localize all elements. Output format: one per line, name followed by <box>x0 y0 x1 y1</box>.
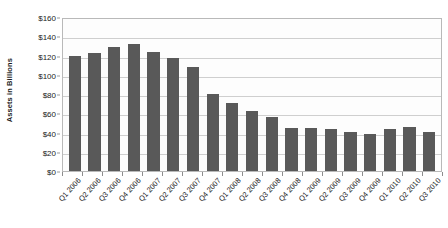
bar-slot <box>282 19 302 171</box>
bar-slot <box>242 19 262 171</box>
bar <box>226 103 238 171</box>
y-axis-tick-label: $120 <box>38 52 56 61</box>
bar <box>285 128 297 171</box>
bar-slot <box>163 19 183 171</box>
bar <box>266 117 278 171</box>
y-axis-tick-mark <box>57 133 60 134</box>
bar <box>364 134 376 171</box>
bar-slot <box>104 19 124 171</box>
bar <box>187 67 199 171</box>
y-axis-tick-mark <box>57 152 60 153</box>
y-axis-tick-labels: $0$20$40$60$80$100$120$140$160 <box>16 0 60 180</box>
bar-slot <box>65 19 85 171</box>
y-axis-tick-mark <box>57 18 60 19</box>
bar <box>246 111 258 171</box>
bar-slot <box>360 19 380 171</box>
y-axis-tick-mark <box>57 56 60 57</box>
bar <box>325 129 337 171</box>
bar <box>423 132 435 171</box>
bar <box>305 128 317 171</box>
y-axis-tick-label: $100 <box>38 71 56 80</box>
bar <box>384 129 396 171</box>
bar-slot <box>203 19 223 171</box>
x-axis-tick-mark <box>442 172 443 176</box>
y-axis-tick-label: $0 <box>47 168 56 177</box>
y-axis-tick-label: $20 <box>43 148 56 157</box>
bar-slot <box>419 19 439 171</box>
y-axis-tick-label: $140 <box>38 33 56 42</box>
bar <box>88 53 100 171</box>
y-axis-tick-label: $40 <box>43 129 56 138</box>
bar-chart: Assets in Billions $0$20$40$60$80$100$12… <box>0 0 448 228</box>
bar-slot <box>183 19 203 171</box>
bar-slot <box>85 19 105 171</box>
y-axis-tick-mark <box>57 95 60 96</box>
bar-slot <box>124 19 144 171</box>
bar-slot <box>341 19 361 171</box>
y-axis-tick-mark <box>57 37 60 38</box>
bar <box>69 56 81 171</box>
bar-slot <box>301 19 321 171</box>
y-axis-tick-mark <box>57 172 60 173</box>
y-axis-tick-label: $60 <box>43 110 56 119</box>
bar-slot <box>380 19 400 171</box>
plot-area <box>62 18 442 172</box>
y-axis-tick-label: $160 <box>38 14 56 23</box>
bar <box>344 132 356 171</box>
bar <box>403 127 415 171</box>
bar-series <box>63 19 441 171</box>
bar <box>147 52 159 171</box>
y-axis-tick-label: $80 <box>43 91 56 100</box>
bar <box>207 94 219 171</box>
bar-slot <box>223 19 243 171</box>
y-axis-tick-mark <box>57 75 60 76</box>
bar <box>108 47 120 171</box>
bar-slot <box>321 19 341 171</box>
y-axis-title: Assets in Billions <box>2 0 16 180</box>
bar-slot <box>400 19 420 171</box>
y-axis-tick-mark <box>57 114 60 115</box>
bar <box>167 58 179 171</box>
bar-slot <box>144 19 164 171</box>
bar-slot <box>262 19 282 171</box>
bar <box>128 44 140 171</box>
x-axis-tick-labels: Q1 2006Q2 2006Q3 2006Q4 2006Q1 2007Q2 20… <box>62 176 442 228</box>
y-axis-title-label: Assets in Billions <box>5 58 14 122</box>
